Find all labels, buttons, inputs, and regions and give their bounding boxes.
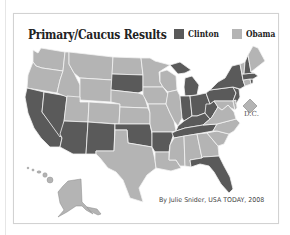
state-ak bbox=[58, 179, 93, 217]
state-ri bbox=[250, 79, 253, 84]
state-fl bbox=[190, 156, 233, 193]
state-me bbox=[248, 46, 265, 72]
state-nm bbox=[86, 122, 115, 154]
state-wy bbox=[80, 78, 112, 102]
state-hi bbox=[27, 167, 53, 183]
state-co bbox=[88, 102, 120, 124]
credit-line: By Julie Snider, USA TODAY, 2008 bbox=[159, 196, 264, 204]
state-ny bbox=[210, 64, 245, 90]
state-nd bbox=[112, 57, 143, 75]
state-az bbox=[60, 121, 88, 154]
state-ia bbox=[143, 87, 168, 104]
state-ks bbox=[119, 107, 150, 124]
dc-label: D.C. bbox=[244, 110, 259, 118]
